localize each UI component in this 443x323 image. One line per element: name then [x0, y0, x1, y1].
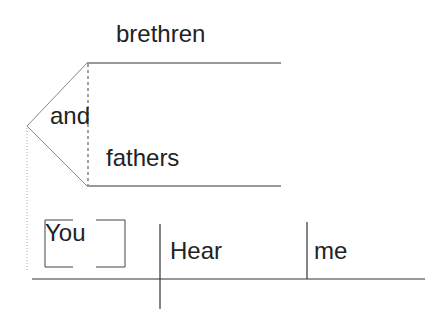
word-fathers: fathers: [106, 146, 179, 170]
lower-diagonal: [27, 126, 87, 186]
word-you: You: [45, 221, 86, 245]
diagram-lines: [0, 0, 443, 323]
word-me: me: [314, 239, 347, 263]
word-hear: Hear: [170, 239, 222, 263]
word-and: and: [50, 104, 90, 128]
word-brethren: brethren: [116, 22, 205, 46]
